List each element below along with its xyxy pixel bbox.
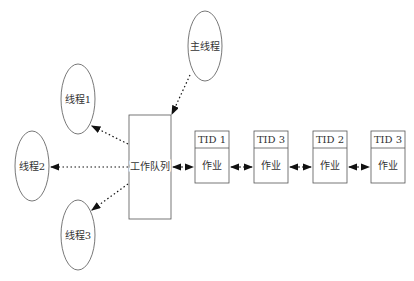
- job-box: TID 2作业: [313, 131, 347, 183]
- queue-to-thread3-arrow: [92, 184, 128, 210]
- thread3-label: 线程3: [65, 229, 91, 241]
- job-label: 作业: [378, 160, 398, 171]
- job-label: 作业: [320, 160, 340, 171]
- main-thread-node: 主线程: [188, 11, 222, 81]
- job-list: TID 1作业TID 3作业TID 2作业TID 3作业: [173, 131, 405, 183]
- work-queue-label: 工作队列: [130, 160, 170, 172]
- job-box: TID 1作业: [195, 131, 229, 183]
- diagram: 主线程 线程1 线程2 线程3 工作队列 TID 1作业TID 3作业TID 2…: [0, 0, 414, 281]
- job-label: 作业: [261, 160, 281, 171]
- thread2-label: 线程2: [19, 160, 45, 172]
- job-tid: TID 3: [374, 134, 402, 145]
- diagram-canvas: 主线程 线程1 线程2 线程3 工作队列 TID 1作业TID 3作业TID 2…: [0, 0, 414, 281]
- main-to-queue-arrow: [172, 75, 190, 114]
- job-box: TID 3作业: [254, 131, 288, 183]
- main-thread-label: 主线程: [190, 40, 220, 52]
- job-tid: TID 2: [316, 134, 344, 145]
- job-tid: TID 3: [257, 134, 285, 145]
- work-queue-node: 工作队列: [129, 115, 171, 219]
- job-label: 作业: [202, 160, 222, 171]
- queue-to-thread1-arrow: [92, 126, 128, 144]
- thread1-node: 线程1: [61, 64, 95, 134]
- job-box: TID 3作业: [371, 131, 405, 183]
- thread2-node: 线程2: [15, 131, 49, 201]
- job-tid: TID 1: [198, 134, 226, 145]
- thread3-node: 线程3: [61, 200, 95, 270]
- thread1-label: 线程1: [65, 93, 91, 105]
